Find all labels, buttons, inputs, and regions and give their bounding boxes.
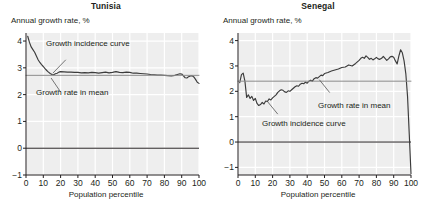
y-tick-label-senegal: 1 xyxy=(229,112,234,122)
panel-senegal: Senegal Annual growth rate, % −101234010… xyxy=(212,0,424,208)
y-axis-title-tunisia: Annual growth rate, % xyxy=(11,16,90,25)
y-tick-label-senegal: −1 xyxy=(224,162,234,172)
annotation-growth-rate-in-mean-tunisia: Growth rate in mean xyxy=(36,88,108,97)
y-tick-label-senegal: 3 xyxy=(229,61,234,71)
panel-tunisia: Tunisia Annual growth rate, % −101234010… xyxy=(0,0,212,208)
x-tick-label-tunisia: 20 xyxy=(56,178,65,188)
x-tick-label-senegal: 60 xyxy=(337,178,346,188)
x-tick-label-senegal: 90 xyxy=(389,178,398,188)
x-tick-label-senegal: 50 xyxy=(320,178,329,188)
y-tick-label-tunisia: 4 xyxy=(17,36,22,46)
x-tick-label-tunisia: 90 xyxy=(177,178,186,188)
y-tick-label-tunisia: 3 xyxy=(17,63,22,73)
panel-title-tunisia: Tunisia xyxy=(0,1,212,11)
leader-line-growth-incidence xyxy=(53,60,66,73)
x-tick-label-tunisia: 60 xyxy=(125,178,134,188)
growth-incidence-curves-figure: Tunisia Annual growth rate, % −101234010… xyxy=(0,0,425,208)
growth-incidence-curve xyxy=(240,50,411,174)
y-tick-label-tunisia: 2 xyxy=(17,90,22,100)
annotation-growth-incidence-curve-tunisia: Growth incidence curve xyxy=(46,39,130,48)
x-tick-label-senegal: 10 xyxy=(251,178,260,188)
x-tick-label-senegal: 30 xyxy=(285,178,294,188)
y-tick-label-senegal: 2 xyxy=(229,86,234,96)
x-tick-label-senegal: 80 xyxy=(372,178,381,188)
x-tick-label-tunisia: 70 xyxy=(142,178,151,188)
panel-title-senegal: Senegal xyxy=(212,1,424,11)
y-axis-title-senegal: Annual growth rate, % xyxy=(223,16,302,25)
x-tick-label-senegal: 20 xyxy=(268,178,277,188)
x-tick-label-senegal: 40 xyxy=(302,178,311,188)
x-tick-label-tunisia: 10 xyxy=(39,178,48,188)
x-axis-title-senegal: Population percentile xyxy=(212,190,424,199)
x-axis-title-tunisia: Population percentile xyxy=(0,190,212,199)
y-tick-label-senegal: 4 xyxy=(229,36,234,46)
x-tick-label-tunisia: 40 xyxy=(90,178,99,188)
plot-svg-tunisia xyxy=(26,33,199,175)
x-tick-label-tunisia: 30 xyxy=(73,178,82,188)
x-tick-label-senegal: 0 xyxy=(236,178,241,188)
x-tick-label-tunisia: 0 xyxy=(24,178,29,188)
y-tick-label-senegal: 0 xyxy=(229,137,234,147)
annotation-growth-rate-in-mean-senegal: Growth rate in mean xyxy=(318,101,390,110)
x-tick-label-tunisia: 100 xyxy=(192,178,206,188)
x-tick-label-tunisia: 50 xyxy=(108,178,117,188)
y-tick-label-tunisia: −1 xyxy=(12,170,22,180)
y-tick-label-tunisia: 1 xyxy=(17,116,22,126)
plot-area-tunisia: −1012340102030405060708090100 xyxy=(26,33,199,175)
annotation-growth-incidence-curve-senegal: Growth incidence curve xyxy=(262,119,346,128)
y-tick-label-tunisia: 0 xyxy=(17,143,22,153)
x-tick-label-senegal: 100 xyxy=(404,178,418,188)
x-tick-label-senegal: 70 xyxy=(354,178,363,188)
x-tick-label-tunisia: 80 xyxy=(160,178,169,188)
